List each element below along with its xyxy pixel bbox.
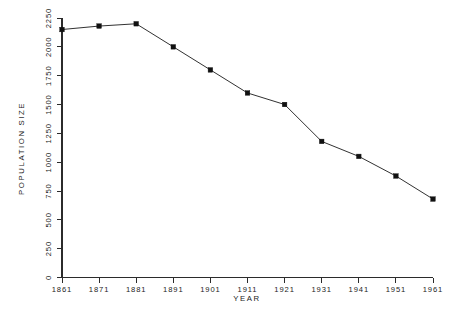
chart-axes [62, 18, 433, 278]
y-tick-label: 1750 [44, 65, 53, 86]
x-tick-label: 1881 [126, 285, 147, 294]
x-tick-label: 1901 [200, 285, 221, 294]
x-tick-label: 1871 [89, 285, 110, 294]
x-tick-label: 1891 [163, 285, 184, 294]
data-point [171, 45, 176, 50]
y-axis-title: POPULATION SIZE [17, 102, 26, 195]
y-tick-label: 2250 [44, 8, 53, 29]
x-axis-title: YEAR [233, 294, 261, 303]
x-axis-tick-labels: 1861187118811891190119111921193119411951… [52, 285, 444, 294]
data-point [245, 91, 250, 96]
data-point [134, 21, 139, 26]
x-tick-label: 1861 [52, 285, 73, 294]
data-point [394, 174, 399, 179]
x-tick-label: 1921 [274, 285, 295, 294]
y-tick-label: 1500 [44, 94, 53, 115]
y-axis-ticks [57, 18, 62, 278]
y-tick-label: 2000 [44, 37, 53, 58]
y-tick-label: 0 [44, 275, 53, 280]
x-tick-label: 1961 [423, 285, 444, 294]
chart-canvas: 0250500750100012501500175020002250 18611… [0, 0, 455, 316]
data-point [357, 154, 362, 159]
data-point [319, 139, 324, 144]
population-line-chart: 0250500750100012501500175020002250 18611… [0, 0, 455, 316]
x-tick-label: 1941 [349, 285, 370, 294]
y-axis-tick-labels: 0250500750100012501500175020002250 [44, 8, 53, 280]
data-point [60, 27, 65, 32]
y-tick-label: 1250 [44, 123, 53, 144]
y-tick-label: 250 [44, 241, 53, 256]
x-tick-label: 1931 [311, 285, 332, 294]
data-point [282, 102, 287, 107]
data-point [97, 24, 102, 29]
x-axis-ticks [62, 278, 433, 283]
data-point [431, 197, 436, 202]
population-series-markers [60, 21, 436, 201]
x-tick-label: 1951 [386, 285, 407, 294]
y-tick-label: 1000 [44, 152, 53, 173]
data-point [208, 68, 213, 73]
population-series-line [62, 24, 433, 199]
y-tick-label: 500 [44, 212, 53, 227]
y-tick-label: 750 [44, 183, 53, 198]
x-tick-label: 1911 [238, 285, 258, 294]
